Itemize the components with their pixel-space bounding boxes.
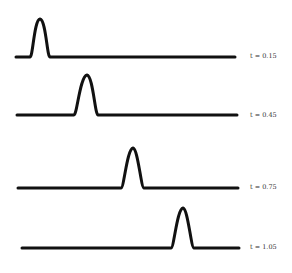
wave-curve-t105 xyxy=(22,208,239,248)
time-label-1: t = 0.15 xyxy=(250,52,277,60)
wave-plot xyxy=(0,0,292,273)
wave-curve-t045 xyxy=(17,75,237,115)
time-label-2: t = 0.45 xyxy=(250,111,277,119)
wave-curve-t015 xyxy=(16,19,235,57)
wave-curve-t075 xyxy=(18,148,238,188)
time-label-3: t = 0.75 xyxy=(250,183,277,191)
time-label-4: t = 1.05 xyxy=(250,243,277,251)
